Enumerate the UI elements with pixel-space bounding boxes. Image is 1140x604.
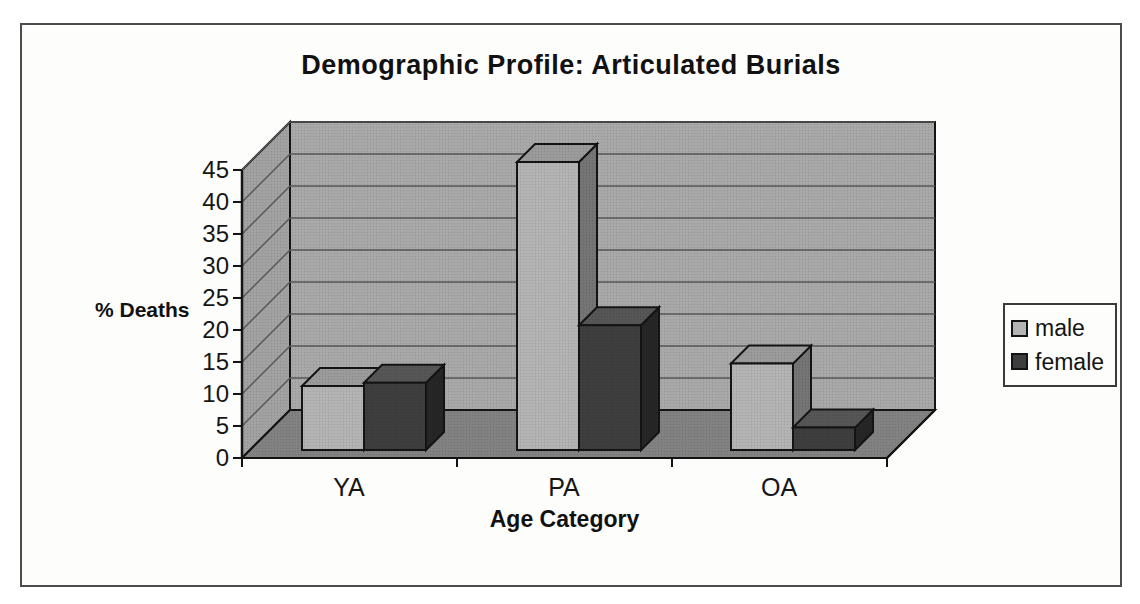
legend: malefemale bbox=[1003, 303, 1117, 387]
y-tick-label: 30 bbox=[181, 253, 229, 279]
y-tick-label: 35 bbox=[181, 221, 229, 247]
legend-swatch-female bbox=[1011, 353, 1028, 370]
y-tick-label: 40 bbox=[181, 189, 229, 215]
x-tick-label-ya: YA bbox=[304, 473, 394, 502]
x-axis-title: Age Category bbox=[242, 506, 887, 533]
y-tick-label: 20 bbox=[181, 317, 229, 343]
y-tick-label: 45 bbox=[181, 157, 229, 183]
x-tick-label-oa: OA bbox=[734, 473, 824, 502]
y-tick-label: 25 bbox=[181, 285, 229, 311]
legend-label: male bbox=[1035, 316, 1085, 340]
y-axis-title: % Deaths bbox=[95, 298, 190, 322]
page: Demographic Profile: Articulated Burials… bbox=[0, 0, 1140, 604]
y-tick-label: 0 bbox=[181, 445, 229, 471]
legend-label: female bbox=[1035, 350, 1104, 374]
chart-title: Demographic Profile: Articulated Burials bbox=[20, 50, 1122, 81]
legend-swatch-male bbox=[1011, 320, 1028, 337]
legend-item-male: male bbox=[1011, 316, 1109, 340]
legend-item-female: female bbox=[1011, 350, 1109, 374]
x-tick-label-pa: PA bbox=[519, 473, 609, 502]
y-tick-label: 5 bbox=[181, 413, 229, 439]
y-tick-label: 15 bbox=[181, 349, 229, 375]
halftone-overlay bbox=[242, 122, 935, 458]
y-tick-label: 10 bbox=[181, 381, 229, 407]
